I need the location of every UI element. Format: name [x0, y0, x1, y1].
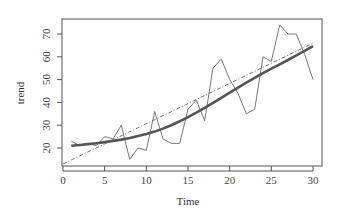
y-tick-label: 20	[40, 142, 52, 154]
time-series-chart: 051015202530 203040506070 Time trend	[0, 0, 340, 219]
x-tick-label: 0	[60, 174, 66, 186]
y-tick-label: 50	[40, 74, 52, 86]
y-tick-label: 70	[40, 28, 52, 40]
y-axis-label: trend	[14, 81, 26, 104]
y-axis: 203040506070	[40, 28, 62, 154]
series-observed	[71, 25, 313, 160]
x-tick-label: 15	[183, 174, 195, 186]
x-tick-label: 20	[224, 174, 236, 186]
x-axis-label: Time	[177, 195, 200, 207]
y-tick-label: 40	[40, 96, 52, 108]
x-axis: 051015202530	[60, 166, 319, 186]
x-tick-label: 25	[266, 174, 278, 186]
series-linear-fit	[63, 43, 313, 164]
x-tick-label: 10	[141, 174, 153, 186]
x-tick-label: 30	[308, 174, 320, 186]
y-tick-label: 60	[40, 51, 52, 63]
y-tick-label: 30	[40, 119, 52, 131]
plot-frame	[62, 19, 322, 166]
plot-area	[63, 25, 313, 164]
x-tick-label: 5	[102, 174, 108, 186]
